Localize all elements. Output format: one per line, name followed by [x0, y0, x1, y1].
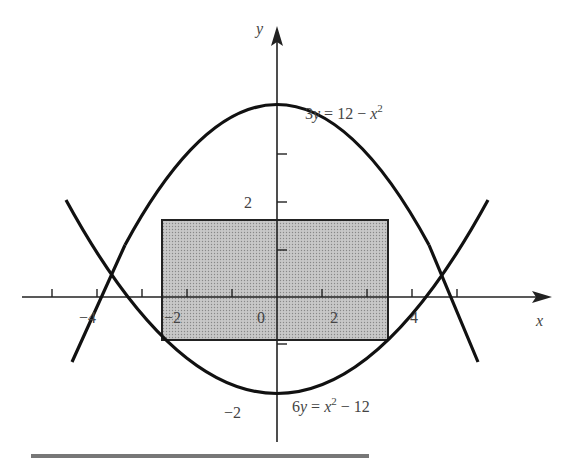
lower-curve-label: 6y = x2 − 12 — [292, 395, 370, 416]
tick-label-4: 4 — [410, 309, 418, 326]
parabola-diagram: y x −4 −2 0 2 4 2 −2 3y = 12 − x2 6y = x… — [0, 0, 564, 458]
shaded-rectangle — [162, 220, 388, 340]
tick-label-y-minus-2: −2 — [224, 404, 241, 421]
upper-curve-label: 3y = 12 − x2 — [305, 102, 383, 123]
tick-label-minus-4: −4 — [79, 309, 96, 326]
y-axis-label: y — [254, 20, 264, 38]
tick-label-2: 2 — [330, 309, 338, 326]
tick-label-minus-2: −2 — [164, 309, 181, 326]
bottom-bar — [31, 454, 369, 458]
x-axis-label: x — [535, 312, 543, 329]
tick-label-y-2: 2 — [244, 194, 252, 211]
tick-label-zero: 0 — [257, 309, 265, 326]
